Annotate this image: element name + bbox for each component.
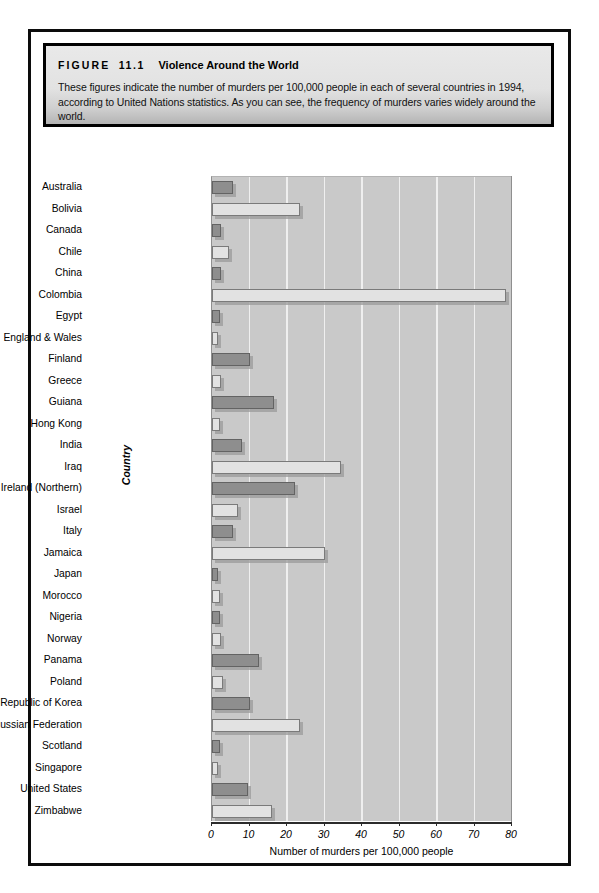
x-tick-label: 0 — [196, 828, 226, 840]
bar — [212, 482, 295, 495]
x-tick — [474, 822, 475, 826]
category-label: Panama — [0, 654, 82, 665]
x-tick-label: 80 — [496, 828, 526, 840]
category-label: Republic of Korea — [0, 697, 82, 708]
figure-number: 11.1 — [119, 59, 145, 71]
category-label: Guiana — [0, 396, 82, 407]
bar — [212, 676, 223, 689]
x-tick-label: 60 — [421, 828, 451, 840]
bar — [212, 740, 220, 753]
figure-header: FIGURE 11.1 Violence Around the World Th… — [43, 43, 554, 127]
figure-caption: These figures indicate the number of mur… — [58, 80, 539, 124]
x-tick-label: 70 — [459, 828, 489, 840]
x-tick — [249, 822, 250, 826]
bar — [212, 461, 341, 474]
category-label: Bolivia — [0, 203, 82, 214]
category-label: Russian Federation — [0, 719, 82, 730]
bar — [212, 762, 218, 775]
bar — [212, 267, 221, 280]
category-label: Greece — [0, 375, 82, 386]
category-label: Japan — [0, 568, 82, 579]
category-label: Jamaica — [0, 547, 82, 558]
x-tick-label: 30 — [309, 828, 339, 840]
bar — [212, 224, 221, 237]
bar — [212, 805, 272, 818]
bar — [212, 697, 250, 710]
x-tick — [211, 822, 212, 826]
x-tick — [399, 822, 400, 826]
bar — [212, 396, 274, 409]
bar — [212, 375, 221, 388]
bar — [212, 568, 218, 581]
chart-area: Country AustraliaBoliviaCanadaChileChina… — [43, 136, 554, 854]
gridline — [399, 177, 401, 821]
category-label: Iraq — [0, 461, 82, 472]
category-label: Ireland (Northern) — [0, 482, 82, 493]
bar — [212, 310, 220, 323]
bar — [212, 633, 221, 646]
category-label: Australia — [0, 181, 82, 192]
category-label: Israel — [0, 504, 82, 515]
x-tick — [286, 822, 287, 826]
category-label: England & Wales — [0, 332, 82, 343]
x-tick — [324, 822, 325, 826]
category-label: Chile — [0, 246, 82, 257]
x-tick-label: 20 — [271, 828, 301, 840]
gridline — [436, 177, 438, 821]
category-label: Scotland — [0, 740, 82, 751]
gridline — [361, 177, 363, 821]
bar — [212, 246, 229, 259]
bar — [212, 654, 259, 667]
bar — [212, 203, 300, 216]
category-label: Zimbabwe — [0, 805, 82, 816]
category-label: Canada — [0, 224, 82, 235]
figure-title-line: FIGURE 11.1 Violence Around the World — [58, 55, 539, 73]
category-label: China — [0, 267, 82, 278]
bar — [212, 525, 233, 538]
bar — [212, 783, 248, 796]
figure-title: Violence Around the World — [158, 59, 298, 71]
category-label: Nigeria — [0, 611, 82, 622]
x-axis-title: Number of murders per 100,000 people — [211, 845, 512, 857]
x-tick-label: 50 — [384, 828, 414, 840]
bar — [212, 547, 325, 560]
bar — [212, 418, 220, 431]
bar — [212, 353, 250, 366]
category-label: Morocco — [0, 590, 82, 601]
bar — [212, 439, 242, 452]
category-label: Poland — [0, 676, 82, 687]
bar — [212, 719, 300, 732]
category-label: Italy — [0, 525, 82, 536]
category-label: Egypt — [0, 310, 82, 321]
category-label: India — [0, 439, 82, 450]
gridline — [474, 177, 476, 821]
x-tick — [361, 822, 362, 826]
category-label: Singapore — [0, 762, 82, 773]
bar — [212, 181, 233, 194]
y-axis-title: Country — [120, 425, 134, 505]
bar — [212, 332, 218, 345]
category-label: Colombia — [0, 289, 82, 300]
figure-label: FIGURE — [58, 59, 110, 71]
gridline — [324, 177, 326, 821]
x-tick-label: 10 — [234, 828, 264, 840]
x-tick — [511, 822, 512, 826]
x-tick — [436, 822, 437, 826]
bar — [212, 504, 238, 517]
figure-frame: FIGURE 11.1 Violence Around the World Th… — [28, 29, 571, 866]
bar — [212, 590, 220, 603]
plot-right-border — [511, 176, 513, 822]
category-label: United States — [0, 783, 82, 794]
category-label: Hong Kong — [0, 418, 82, 429]
x-tick-label: 40 — [346, 828, 376, 840]
category-label: Finland — [0, 353, 82, 364]
figure-page: FIGURE 11.1 Violence Around the World Th… — [0, 0, 599, 893]
bar — [212, 611, 220, 624]
bar — [212, 289, 506, 302]
plot-region — [211, 176, 511, 821]
category-label: Norway — [0, 633, 82, 644]
